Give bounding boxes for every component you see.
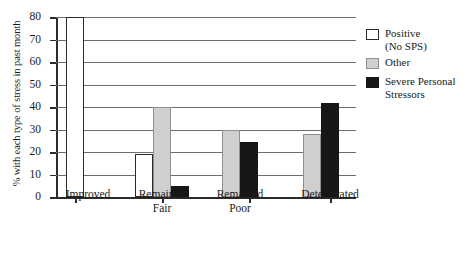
y-tick: 60 [50, 62, 56, 64]
legend-swatch-gray [366, 58, 379, 69]
legend-item: Severe Personal Stressors [366, 75, 467, 100]
bar [321, 103, 339, 198]
bar [66, 17, 84, 197]
y-tick: 30 [50, 130, 56, 132]
legend-swatch-white [366, 29, 379, 40]
gridline [56, 85, 356, 86]
y-tick: 80 [50, 17, 56, 19]
y-tick: 50 [50, 85, 56, 87]
y-tick-label: 20 [30, 146, 42, 158]
y-tick-label: 70 [30, 34, 42, 46]
y-tick: 20 [50, 152, 56, 154]
y-tick-label: 30 [30, 124, 42, 136]
legend-item: Positive (No SPS) [366, 27, 467, 52]
x-category-label: Remained Poor [195, 188, 285, 215]
gridline [56, 107, 356, 108]
y-tick-label: 50 [30, 79, 42, 91]
y-tick-label: 60 [30, 56, 42, 68]
legend-label: Positive (No SPS) [385, 27, 467, 52]
legend-label: Other [385, 56, 467, 69]
legend-item: Other [366, 56, 467, 71]
y-axis-title: % with each type of stress in past month [11, 4, 22, 204]
y-tick: 10 [50, 175, 56, 177]
bar [222, 130, 240, 198]
gridline [56, 17, 356, 18]
y-tick: 40 [50, 107, 56, 109]
x-category-label: Deteriorated [285, 188, 375, 202]
y-tick-label: 0 [35, 191, 41, 203]
x-category-label: Remained Fair [117, 188, 207, 215]
legend-label: Severe Personal Stressors [385, 75, 467, 100]
legend-swatch-black [366, 77, 379, 88]
y-tick-label: 10 [30, 169, 42, 181]
gridline [56, 130, 356, 131]
chart-legend: Positive (No SPS)OtherSevere Personal St… [366, 27, 467, 104]
y-tick: 70 [50, 40, 56, 42]
bar-chart: % with each type of stress in past month… [0, 0, 467, 256]
y-tick-label: 80 [30, 11, 42, 23]
gridline [56, 40, 356, 41]
gridline [56, 62, 356, 63]
plot-area: 01020304050607080 [56, 17, 356, 197]
bar [153, 107, 171, 197]
y-tick-label: 40 [30, 101, 42, 113]
